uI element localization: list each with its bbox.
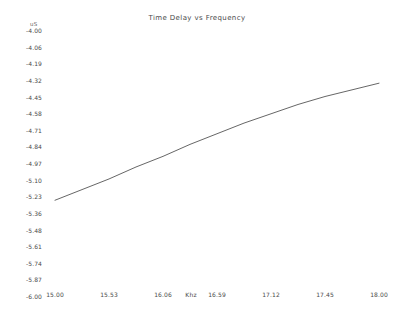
data-series-line bbox=[55, 83, 379, 200]
x-axis-tick-label: 15.00 bbox=[46, 291, 64, 298]
y-axis-tick-label: -5.48 bbox=[26, 226, 60, 233]
x-axis-tick-label: 16.59 bbox=[208, 291, 226, 298]
x-axis-tick-label: 17.45 bbox=[316, 291, 334, 298]
y-axis-tick-label: -4.00 bbox=[26, 27, 60, 34]
y-axis-tick-label: -4.19 bbox=[26, 60, 60, 67]
y-axis-tick-label: -5.36 bbox=[26, 209, 60, 216]
y-axis-tick-label: -4.06 bbox=[26, 43, 60, 50]
y-axis-tick-label: -5.61 bbox=[26, 243, 60, 250]
y-axis-tick-label: -4.32 bbox=[26, 76, 60, 83]
y-axis-tick-label: -4.45 bbox=[26, 93, 60, 100]
chart-container: Time Delay vs Frequency uS -4.00-4.06-4.… bbox=[0, 0, 394, 324]
x-axis-tick-label: 18.00 bbox=[370, 291, 388, 298]
x-axis-unit-label: Khz bbox=[185, 291, 197, 298]
chart-title: Time Delay vs Frequency bbox=[0, 14, 394, 22]
x-axis-tick-label: 15.53 bbox=[100, 291, 118, 298]
y-axis-tick-label: -5.23 bbox=[26, 193, 60, 200]
x-axis-tick-label: 17.12 bbox=[262, 291, 280, 298]
y-axis-tick-label: -5.10 bbox=[26, 176, 60, 183]
x-axis-tick-label: 16.06 bbox=[154, 291, 172, 298]
y-axis-tick-label: -5.74 bbox=[26, 259, 60, 266]
y-axis-tick-label: -5.87 bbox=[26, 276, 60, 283]
y-axis-tick-label: -4.71 bbox=[26, 126, 60, 133]
y-axis-tick-label: -4.58 bbox=[26, 110, 60, 117]
y-axis-tick-label: -4.84 bbox=[26, 143, 60, 150]
y-axis-tick-label: -4.97 bbox=[26, 160, 60, 167]
